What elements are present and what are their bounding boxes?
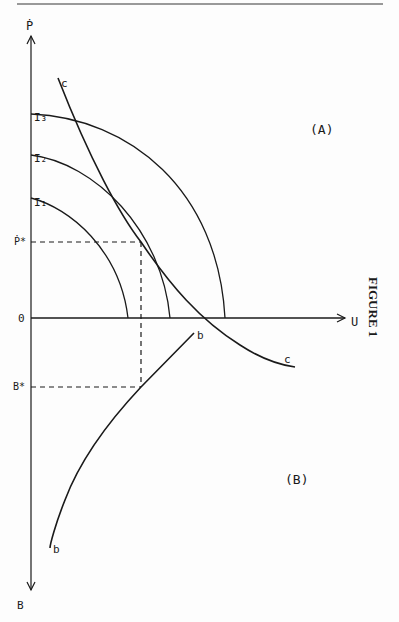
b-star-label: B*: [13, 381, 25, 392]
i3-label: I₃: [34, 111, 47, 124]
panel-b-label: (B): [285, 472, 308, 487]
figure-page: Ṗ U B 0 Ṗ* B* I₁ I₂ I₃ c c b b (A) (B) F…: [0, 0, 399, 622]
vertical-top-label: Ṗ: [26, 18, 33, 33]
b-curve-bottom-label: b: [53, 543, 60, 556]
diagram-canvas: Ṗ U B 0 Ṗ* B* I₁ I₂ I₃ c c b b (A) (B) F…: [0, 0, 399, 622]
b-curve-top-label: b: [197, 329, 204, 342]
p-star-label: Ṗ*: [14, 235, 26, 247]
horizontal-axis-label: U: [351, 315, 358, 329]
c-curve: [58, 78, 295, 367]
indifference-curve-i3: [31, 114, 225, 318]
c-curve-bottom-label: c: [284, 353, 291, 366]
i1-label: I₁: [34, 196, 47, 209]
b-curve: [50, 333, 194, 548]
vertical-bottom-label: B: [17, 599, 24, 612]
panel-a-label: (A): [310, 122, 333, 137]
indifference-curve-i1: [31, 198, 128, 318]
figure-caption: FIGURE 1: [366, 277, 381, 337]
c-curve-top-label: c: [61, 77, 68, 90]
indifference-curve-i2: [31, 155, 170, 318]
i2-label: I₂: [34, 152, 47, 165]
origin-label: 0: [18, 312, 25, 325]
